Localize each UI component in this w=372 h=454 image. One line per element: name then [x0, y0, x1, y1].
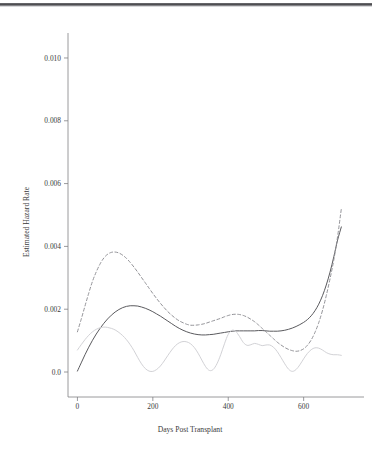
dashed-curve — [77, 209, 341, 352]
y-tick-label: 0.0 — [52, 368, 62, 377]
y-axis-title: Estimated Hazard Rate — [22, 186, 31, 257]
y-axis-ticks: 0.00.0020.0040.0060.0080.010 — [44, 54, 68, 377]
chart-series-group — [77, 209, 341, 372]
x-tick-label: 200 — [147, 402, 158, 411]
x-tick-label: 0 — [76, 402, 80, 411]
y-tick-label: 0.004 — [44, 242, 61, 251]
x-axis-ticks: 0200400600 — [76, 397, 310, 411]
y-tick-label: 0.010 — [44, 54, 61, 63]
x-tick-label: 600 — [298, 402, 309, 411]
y-tick-label: 0.008 — [44, 116, 61, 125]
y-tick-label: 0.002 — [44, 305, 61, 314]
hazard-rate-chart: 0.00.0020.0040.0060.0080.010 0200400600 … — [0, 0, 372, 454]
y-tick-label: 0.006 — [44, 179, 61, 188]
hazard-rate-figure: 0.00.0020.0040.0060.0080.010 0200400600 … — [0, 0, 372, 454]
x-axis-title: Days Post Transplant — [158, 425, 223, 434]
faint-curve — [77, 327, 341, 371]
x-tick-label: 400 — [223, 402, 234, 411]
page-edge-artifact-secondary — [0, 6, 372, 7]
